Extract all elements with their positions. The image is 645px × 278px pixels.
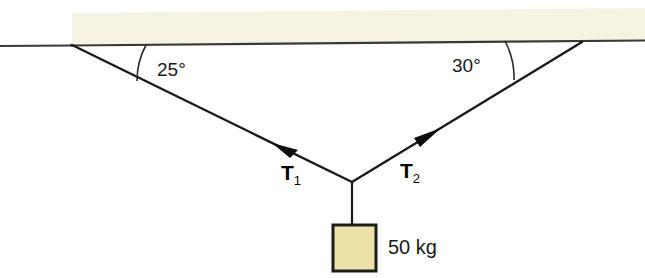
angle-label-right: 30°	[452, 55, 481, 76]
angle-arc-right	[505, 41, 514, 80]
tension-label-t2: T2	[400, 159, 420, 186]
hanging-block	[333, 225, 376, 271]
tension-label-t1: T1	[281, 161, 301, 188]
ceiling-beam	[72, 8, 645, 45]
tension-symbol-t2: T	[400, 159, 413, 182]
physics-force-diagram: 25° 30° T1 T2 50 kg	[0, 0, 645, 278]
cable-left	[72, 45, 352, 182]
tension-subscript-t2: 2	[413, 171, 420, 186]
tension-symbol-t1: T	[281, 161, 294, 184]
angle-arc-left	[137, 45, 146, 81]
tension-subscript-t1: 1	[294, 173, 301, 188]
tension-arrowhead-left	[272, 143, 298, 158]
ceiling-edge-line-left	[0, 46, 72, 47]
angle-label-left: 25°	[157, 59, 186, 80]
mass-label: 50 kg	[388, 236, 437, 258]
tension-arrowhead-right	[414, 128, 441, 147]
